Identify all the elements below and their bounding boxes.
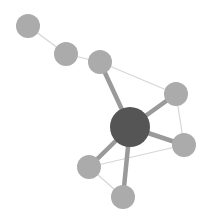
node-n6 bbox=[77, 155, 101, 179]
node-n5 bbox=[172, 133, 196, 157]
graph-nodes bbox=[16, 14, 196, 209]
hub-node bbox=[110, 107, 150, 147]
node-n2 bbox=[54, 42, 78, 66]
node-n1 bbox=[16, 14, 40, 38]
node-n4 bbox=[164, 82, 188, 106]
node-n7 bbox=[111, 185, 135, 209]
network-graph bbox=[0, 0, 210, 219]
node-n3 bbox=[88, 50, 112, 74]
